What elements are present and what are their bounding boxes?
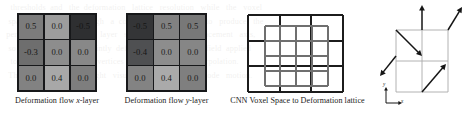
flow-cell: 0.0 xyxy=(154,40,179,64)
flow-cell-value: 0.0 xyxy=(25,74,36,83)
flow-cell: 0.5 xyxy=(180,15,205,39)
flow-cell: -0.5 xyxy=(128,15,153,39)
caption-prefix: Deformation flow xyxy=(15,96,76,105)
flow-cell-value: -0.3 xyxy=(24,48,38,57)
flow-cell-value: 0.0 xyxy=(187,74,198,83)
flow-cell-value: 0.5 xyxy=(161,22,172,31)
flow-cell: 0.0 xyxy=(71,66,96,90)
flow-cell-value: 0.4 xyxy=(161,74,172,83)
flow-cell: 0.5 xyxy=(154,15,179,39)
deformation-arrow-top-center-up xyxy=(419,5,425,30)
caption-suffix: -layer xyxy=(189,96,208,105)
deformation-flow-y-caption: Deformation flow y-layer xyxy=(117,96,216,106)
deformation-flow-y-grid: -0.50.50.5-0.40.00.00.00.40.0 xyxy=(126,13,207,92)
deformation-flow-x-caption: Deformation flow x-layer xyxy=(8,96,106,106)
flow-cell-value: 0.0 xyxy=(187,48,198,57)
flow-cell: 0.5 xyxy=(19,15,44,39)
flow-cell-value: -0.4 xyxy=(133,48,147,57)
flow-cell: -0.4 xyxy=(128,40,153,64)
axis-x-label: x xyxy=(401,99,403,104)
caption-suffix: -layer xyxy=(80,96,99,105)
flow-cell: 0.0 xyxy=(45,15,70,39)
flow-cell-value: 0.0 xyxy=(51,48,62,57)
flow-cell: 0.0 xyxy=(71,40,96,64)
flow-cell: 0.0 xyxy=(180,40,205,64)
flow-cell-value: 0.0 xyxy=(78,48,89,57)
axis-x-arrow xyxy=(386,101,402,105)
flow-cell-value: 0.4 xyxy=(51,74,62,83)
flow-cell-value: 0.5 xyxy=(25,22,36,31)
flow-cell: 0.0 xyxy=(180,66,205,90)
voxel-deformation-lattice-diagram xyxy=(247,14,344,93)
flow-cell-value: 0.0 xyxy=(135,74,146,83)
arrows-svg xyxy=(378,4,464,110)
flow-cell: 0.0 xyxy=(128,66,153,90)
flow-cell-value: -0.5 xyxy=(76,22,90,31)
flow-cell-value: 0.5 xyxy=(187,22,198,31)
deformation-arrow-bottom-center-up-right xyxy=(422,64,446,92)
flow-cell: 0.4 xyxy=(45,66,70,90)
cnn-voxel-lattice-caption: CNN Voxel Space to Deformation lattice xyxy=(230,96,365,106)
deformation-node-arrows-diagram xyxy=(378,4,464,110)
caption-prefix: CNN Voxel Space to Deformation lattice xyxy=(230,96,364,105)
deformation-arrow-top-right-up-left xyxy=(448,7,462,30)
flow-cell-value: -0.5 xyxy=(133,22,147,31)
axis-y-arrow xyxy=(384,87,388,103)
caption-prefix: Deformation flow xyxy=(125,96,186,105)
flow-cell-value: 0.0 xyxy=(78,74,89,83)
deformation-arrow-mid-left-down-left xyxy=(380,56,396,76)
flow-cell: 0.0 xyxy=(45,40,70,64)
flow-cell: -0.5 xyxy=(71,15,96,39)
flow-cell: 0.4 xyxy=(154,66,179,90)
flow-cell-value: 0.0 xyxy=(51,22,62,31)
flow-cell-value: 0.0 xyxy=(161,48,172,57)
flow-cell: 0.0 xyxy=(19,66,44,90)
lattice-svg xyxy=(247,14,344,93)
deformation-flow-x-grid: 0.50.0-0.5-0.30.00.00.00.40.0 xyxy=(17,13,97,92)
deformation-arrow-top-left-down-right xyxy=(396,30,422,56)
axis-y-label: y xyxy=(383,82,385,87)
flow-cell: -0.3 xyxy=(19,40,44,64)
